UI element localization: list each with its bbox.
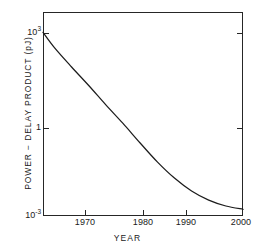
x-axis-label-1990: 1990 bbox=[176, 218, 196, 227]
y-axis-label-1-mantissa: 1 bbox=[36, 122, 41, 132]
plot-area-frame bbox=[43, 12, 243, 216]
y-axis-label-1: 1 bbox=[36, 123, 41, 132]
y-axis-title: POWER − DELAY PRODUCT (pJ) bbox=[23, 23, 33, 203]
x-axis-tick-1980 bbox=[143, 210, 144, 216]
x-axis-label-1980: 1980 bbox=[133, 218, 153, 227]
y-axis-label-1e3-exponent: 3 bbox=[37, 25, 41, 32]
y-axis-tick-right-1e3 bbox=[237, 33, 243, 34]
y-axis-tick-1 bbox=[43, 128, 49, 129]
chart-figure: 103 1 10-3 1970 1980 1990 2000 YEAR POWE… bbox=[0, 0, 255, 248]
y-axis-tick-right-1 bbox=[237, 128, 243, 129]
x-axis-label-2000: 2000 bbox=[231, 218, 251, 227]
y-axis-label-1e-3-mantissa: 10 bbox=[25, 210, 35, 220]
x-axis-title: YEAR bbox=[0, 233, 255, 243]
y-axis-tick-1e3 bbox=[43, 33, 49, 34]
y-axis-label-1e-3: 10-3 bbox=[25, 211, 41, 220]
x-axis-tick-1970 bbox=[85, 210, 86, 216]
x-axis-tick-1990 bbox=[186, 210, 187, 216]
y-axis-label-1e-3-exponent: -3 bbox=[35, 208, 41, 215]
x-axis-label-1970: 1970 bbox=[75, 218, 95, 227]
